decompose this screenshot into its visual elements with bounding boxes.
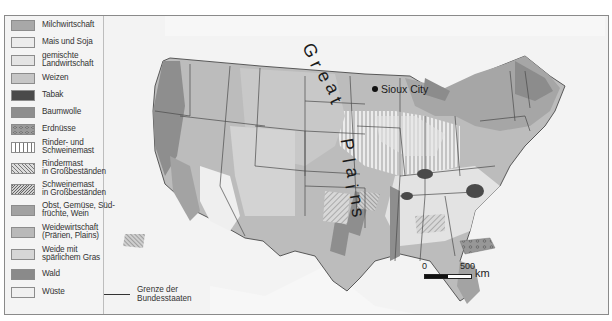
legend-item-baumwolle: Baumwolle	[11, 103, 141, 121]
legend-swatch	[11, 90, 35, 101]
legend-label: Weide mit spärlichem Gras	[42, 246, 100, 263]
city-marker-icon	[372, 86, 378, 92]
legend-label: Wald	[42, 270, 60, 278]
legend-swatch	[11, 73, 35, 84]
legend-swatch	[11, 269, 35, 280]
legend-item-tabak: Tabak	[11, 86, 141, 104]
legend-item-schweinemast: Schweinemast in Großbeständen	[11, 180, 141, 198]
scale-max: 500	[460, 261, 475, 271]
city-label: Sioux City	[381, 83, 428, 95]
legend-swatch	[11, 37, 35, 48]
legend-label: Grenze der Bundesstaaten	[137, 286, 192, 303]
legend-label: Schweinemast in Großbeständen	[42, 181, 106, 198]
legend-label: Mais und Soja	[42, 38, 93, 46]
legend-item-mais-soja: Mais und Soja	[11, 33, 141, 51]
legend-item-weidewirtschaft: Weidewirtschaft (Prärien, Plains)	[11, 223, 141, 241]
legend-item-erdnuesse: Erdnüsse	[11, 120, 141, 138]
legend-item-rindermast: Rindermast in Großbeständen	[11, 159, 141, 177]
legend-label: Rindermast in Großbeständen	[42, 160, 106, 177]
legend-swatch	[11, 107, 35, 118]
legend-item-weide-spaerlich: Weide mit spärlichem Gras	[11, 245, 141, 263]
legend-swatch	[11, 55, 35, 66]
map-frame: Milchwirtschaft Mais und Soja gemischte …	[4, 15, 609, 315]
legend-swatch	[11, 20, 35, 31]
legend-label: Wüste	[42, 288, 65, 296]
legend-label: Obst, Gemüse, Süd- früchte, Wein	[42, 202, 115, 219]
legend-item-wald: Wald	[11, 265, 141, 283]
legend-swatch	[11, 249, 35, 260]
legend-swatch	[11, 227, 35, 238]
legend-swatch	[11, 142, 35, 153]
legend-item-weizen: Weizen	[11, 69, 141, 87]
legend-label: gemischte Landwirtschaft	[42, 52, 93, 69]
legend-item-milchwirtschaft: Milchwirtschaft	[11, 16, 141, 34]
scale-unit: km	[475, 267, 490, 279]
legend-item-state-border: Grenze der Bundesstaaten	[104, 286, 192, 303]
legend-label: Baumwolle	[42, 108, 81, 116]
scale-bar-graphic	[424, 274, 472, 279]
legend-label: Weizen	[42, 74, 69, 82]
legend-item-gemischte-landwirtschaft: gemischte Landwirtschaft	[11, 51, 141, 69]
legend-swatch	[11, 205, 35, 216]
legend-swatch	[11, 124, 35, 135]
state-border-line-icon	[104, 294, 130, 295]
legend-label: Milchwirtschaft	[42, 21, 94, 29]
legend-item-rinder-schweinemast: Rinder- und Schweinemast	[11, 138, 141, 156]
legend-swatch	[11, 287, 35, 298]
legend-label: Rinder- und Schweinemast	[42, 139, 94, 156]
scale-zero: 0	[422, 261, 427, 271]
map-legend: Milchwirtschaft Mais und Soja gemischte …	[5, 16, 104, 314]
legend-label: Tabak	[42, 91, 63, 99]
city-sioux-city: Sioux City	[372, 83, 428, 95]
legend-label: Weidewirtschaft (Prärien, Plains)	[42, 224, 99, 241]
legend-swatch	[11, 163, 35, 174]
legend-label: Erdnüsse	[42, 125, 76, 133]
legend-item-obst-gemuese: Obst, Gemüse, Süd- früchte, Wein	[11, 201, 141, 219]
legend-swatch	[11, 184, 35, 195]
